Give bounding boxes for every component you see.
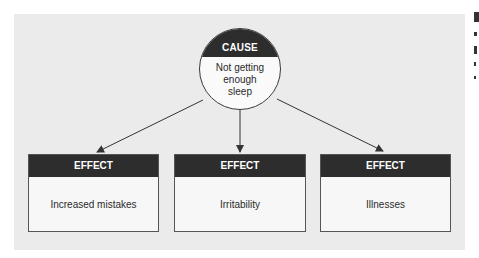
cause-line-2: enough	[200, 74, 280, 86]
cause-text: Not getting enough sleep	[200, 62, 280, 98]
effect-header: EFFECT	[321, 155, 450, 177]
arrow-to-effect-1	[97, 100, 203, 152]
cause-header: CAUSE	[200, 29, 280, 57]
cropped-text-fragment	[474, 76, 476, 79]
effect-text: Illnesses	[321, 177, 450, 231]
effect-box-1: EFFECT Increased mistakes	[28, 154, 159, 232]
arrow-to-effect-3	[277, 99, 383, 151]
effect-text: Increased mistakes	[29, 177, 158, 231]
cause-line-3: sleep	[200, 86, 280, 98]
effect-header: EFFECT	[29, 155, 158, 177]
cause-node: CAUSE Not getting enough sleep	[199, 28, 281, 110]
effect-header: EFFECT	[175, 155, 305, 177]
cropped-text-fragment	[474, 62, 476, 66]
effect-box-3: EFFECT Illnesses	[320, 154, 451, 232]
cropped-text-fragment	[474, 12, 479, 22]
cropped-text-fragment	[474, 46, 477, 54]
effect-text: Irritability	[175, 177, 305, 231]
cropped-text-fragment	[474, 32, 477, 36]
cause-line-1: Not getting	[200, 62, 280, 74]
effect-box-2: EFFECT Irritability	[174, 154, 306, 232]
